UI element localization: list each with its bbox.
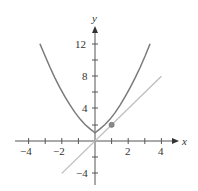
x-tick-label: 4 [158,145,164,157]
y-axis-label: y [91,12,97,24]
y-axis-arrow-icon [92,26,98,33]
x-tick-label: −2 [53,145,65,157]
y-tick-label: 12 [75,38,86,50]
tangent-point [109,122,114,127]
x-tick-label: −4 [20,145,32,157]
x-tick-label: 2 [125,145,131,157]
x-axis-label: x [181,135,187,147]
y-tick-label: −4 [76,167,88,179]
chart: x y −4 −2 2 4 12 8 4 −4 [0,0,198,191]
y-tick-label: 8 [82,70,88,82]
x-axis-arrow-icon [172,138,179,144]
y-tick-label: 4 [82,102,88,114]
